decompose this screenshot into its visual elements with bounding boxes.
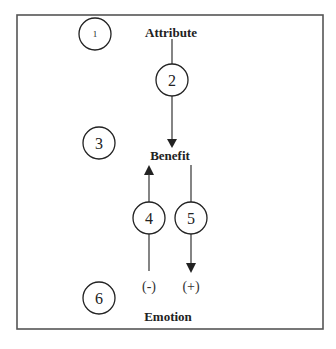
diagram-canvas: 1 Attribute 2 3 Benefit 4 5 (-) (+) xyxy=(0,0,336,349)
circle-3: 3 xyxy=(83,127,115,159)
circle-1: 1 xyxy=(79,18,111,50)
emotion-label: Emotion xyxy=(144,309,192,324)
circle-5-label: 5 xyxy=(187,210,195,227)
benefit-label: Benefit xyxy=(150,148,190,163)
circle-5: 5 xyxy=(175,202,207,234)
circle-3-label: 3 xyxy=(95,135,103,152)
circle-4: 4 xyxy=(133,202,165,234)
arrow-down-icon xyxy=(167,139,177,148)
arrow-up-icon xyxy=(144,165,154,175)
circle-4-label: 4 xyxy=(145,210,153,227)
circle-2: 2 xyxy=(156,64,188,96)
circle-2-label: 2 xyxy=(168,72,176,89)
circle-6-label: 6 xyxy=(95,290,103,307)
arrow-down-icon xyxy=(186,263,196,273)
attribute-label: Attribute xyxy=(145,25,197,40)
negative-sign-label: (-) xyxy=(142,279,156,295)
circle-1-label: 1 xyxy=(93,29,98,39)
diagram-frame xyxy=(17,15,323,329)
positive-sign-label: (+) xyxy=(182,279,200,295)
circle-6: 6 xyxy=(83,282,115,314)
